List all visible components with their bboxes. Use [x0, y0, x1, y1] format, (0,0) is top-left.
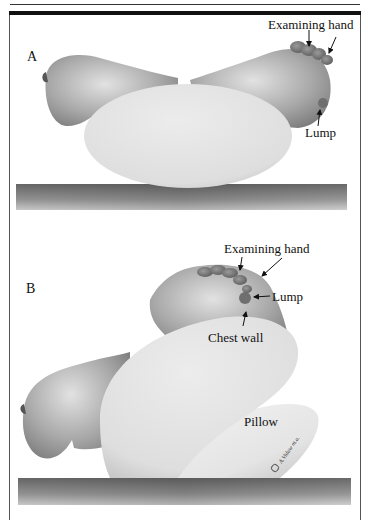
- panel-b-letter: B: [26, 281, 35, 297]
- illustration: A.Vidaw m.a.: [0, 0, 368, 520]
- panel-a-examining-hand-label: Examining hand: [268, 17, 354, 33]
- torso-a: [84, 84, 292, 188]
- panel-a: [16, 30, 347, 210]
- lump-b: [239, 292, 251, 304]
- lump-a: [318, 98, 328, 108]
- panel-a-letter: A: [27, 49, 37, 65]
- panel-a-lump-label: Lump: [305, 125, 336, 141]
- panel-b-chest-wall-label: Chest wall: [208, 330, 263, 346]
- panel-b-examining-hand-label: Examining hand: [224, 241, 310, 257]
- panel-b-lump-label: Lump: [272, 289, 303, 305]
- panel-b-pillow-label: Pillow: [244, 414, 278, 430]
